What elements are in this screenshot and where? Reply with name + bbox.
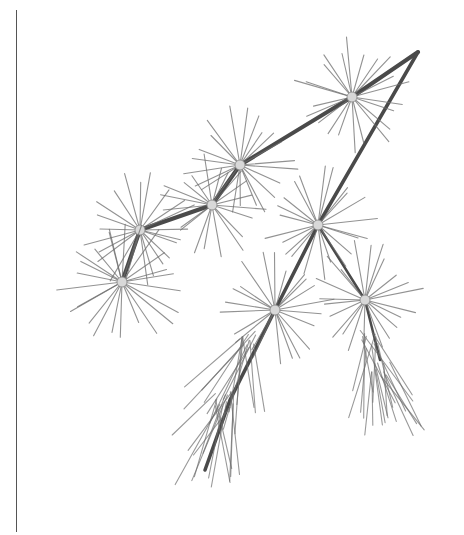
needle bbox=[57, 282, 122, 290]
needle bbox=[295, 182, 318, 225]
needle bbox=[122, 282, 157, 333]
needle bbox=[241, 287, 275, 310]
needle-cluster-knob bbox=[347, 92, 357, 102]
needle-cluster-knob bbox=[270, 305, 280, 315]
needle-cluster-knob bbox=[313, 220, 323, 230]
needle bbox=[275, 253, 276, 311]
needle bbox=[204, 205, 212, 249]
needle bbox=[348, 300, 365, 350]
drooping-needle bbox=[381, 376, 424, 430]
needle-cluster-knob bbox=[360, 295, 370, 305]
needle bbox=[89, 282, 122, 323]
drooping-needle bbox=[202, 331, 255, 390]
needle bbox=[114, 191, 140, 230]
drooping-needle bbox=[365, 372, 372, 435]
needle bbox=[140, 182, 141, 230]
drooping-needle bbox=[209, 406, 223, 478]
needle bbox=[240, 165, 265, 212]
needle bbox=[347, 37, 353, 97]
needle bbox=[100, 229, 140, 230]
needle bbox=[365, 275, 396, 300]
needle-cluster-knob bbox=[207, 200, 217, 210]
drooping-needle bbox=[372, 372, 373, 426]
needle bbox=[325, 300, 366, 304]
needle bbox=[161, 195, 212, 205]
needle bbox=[333, 300, 365, 337]
needle bbox=[212, 205, 243, 250]
drooping-needle bbox=[172, 394, 215, 435]
needle bbox=[252, 310, 275, 350]
needle bbox=[365, 288, 423, 300]
needle-cluster-knob bbox=[235, 160, 245, 170]
drooping-needle bbox=[254, 344, 265, 411]
needle bbox=[97, 215, 140, 230]
drooping-needle bbox=[204, 334, 248, 402]
needle bbox=[352, 76, 393, 97]
needle bbox=[220, 310, 275, 312]
needle bbox=[341, 270, 365, 300]
needle bbox=[140, 173, 150, 230]
needle bbox=[320, 299, 365, 300]
needle bbox=[324, 55, 352, 97]
larch-branch-illustration bbox=[0, 0, 464, 535]
drooping-needle bbox=[185, 339, 240, 387]
needle bbox=[204, 154, 212, 205]
drooping-needle bbox=[376, 370, 386, 423]
needle-cluster-knob bbox=[117, 277, 127, 287]
needle bbox=[140, 230, 176, 243]
